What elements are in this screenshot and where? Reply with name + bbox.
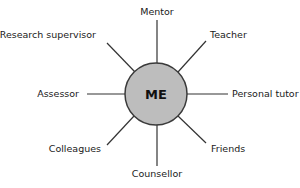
relationship-diagram: ME Mentor Teacher Personal tutor Friends… [0,0,300,188]
label-colleagues: Colleagues [49,143,101,154]
spoke-teacher [178,41,206,72]
label-friends: Friends [211,143,245,154]
center-node: ME [125,63,187,125]
spoke-friends [178,116,206,143]
label-counsellor: Counsellor [132,168,182,179]
label-assessor: Assessor [37,88,79,99]
center-label: ME [145,87,167,102]
label-personal-tutor: Personal tutor [232,88,299,99]
spoke-research-supervisor [107,43,135,72]
label-mentor: Mentor [140,6,174,17]
spoke-colleagues [107,116,134,145]
label-research-supervisor: Research supervisor [0,29,96,40]
label-teacher: Teacher [209,29,247,40]
